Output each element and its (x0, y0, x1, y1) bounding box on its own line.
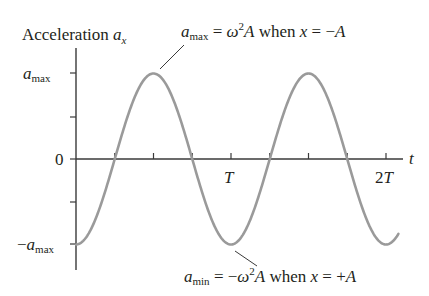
annotation-leader-top (160, 45, 184, 69)
x-axis-label-t: t (409, 149, 415, 168)
y-label-zero: 0 (55, 150, 64, 169)
acceleration-chart: Acceleration ax amax 0 −amax T 2T t (0, 0, 429, 296)
y-ticks (70, 73, 76, 244)
chart-title: Acceleration ax (22, 25, 127, 46)
y-label-amax: amax (23, 64, 51, 84)
annotation-amax: amax = ω2A when x = −A (181, 20, 346, 42)
annotation-amin: amin = −ω2A when x = +A (184, 265, 357, 287)
y-label-neg-amax: −amax (17, 235, 55, 255)
x-label-2T: 2T (375, 168, 395, 187)
annotation-leader-bottom (235, 251, 257, 266)
x-label-T: T (224, 168, 235, 187)
